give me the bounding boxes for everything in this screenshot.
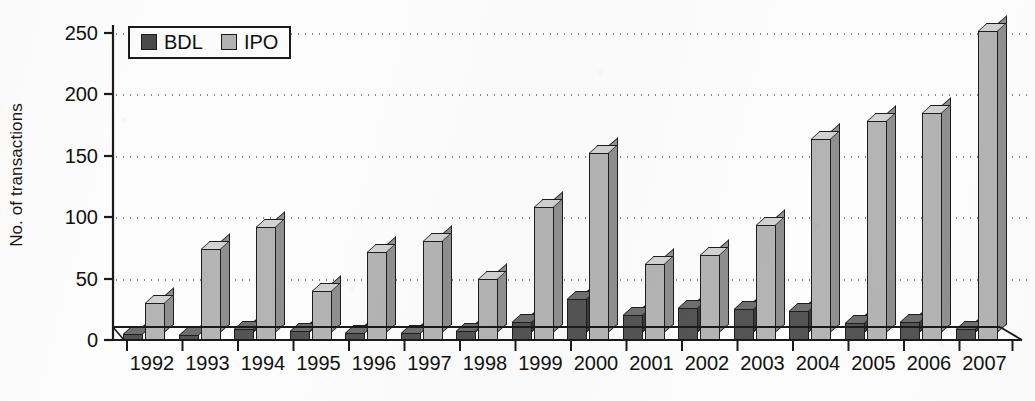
bar-front-face bbox=[123, 334, 143, 340]
plot-area bbox=[113, 20, 1028, 340]
bar-front-face bbox=[645, 264, 665, 340]
bar-ipo-1996 bbox=[367, 252, 387, 340]
x-tick-label-2003: 2003 bbox=[740, 352, 785, 375]
x-tick-label-2002: 2002 bbox=[685, 352, 730, 375]
x-tick-label-2001: 2001 bbox=[629, 352, 674, 375]
bar-bdl-1997 bbox=[401, 333, 421, 340]
x-tick-label-1995: 1995 bbox=[296, 352, 341, 375]
bar-bdl-1999 bbox=[512, 322, 532, 340]
bar-bdl-1992 bbox=[123, 334, 143, 340]
bar-ipo-1997 bbox=[423, 241, 443, 340]
y-tick-label-150: 150 bbox=[40, 144, 98, 167]
bar-side-face bbox=[887, 106, 896, 332]
bar-bdl-2002 bbox=[678, 308, 698, 340]
bar-side-face bbox=[554, 192, 563, 332]
bar-front-face bbox=[290, 331, 310, 340]
bar-ipo-2003 bbox=[756, 225, 776, 340]
bar-ipo-2002 bbox=[700, 255, 720, 340]
bar-ipo-1995 bbox=[312, 291, 332, 340]
bar-front-face bbox=[401, 333, 421, 340]
bar-side-face bbox=[609, 138, 618, 332]
bar-bdl-2003 bbox=[734, 309, 754, 340]
bar-front-face bbox=[700, 255, 720, 340]
bar-front-face bbox=[367, 252, 387, 340]
y-tick-label-250: 250 bbox=[40, 22, 98, 45]
bar-ipo-1992 bbox=[145, 303, 165, 340]
bar-bdl-1998 bbox=[456, 331, 476, 340]
x-tick-label-2000: 2000 bbox=[574, 352, 619, 375]
bar-bdl-2005 bbox=[845, 323, 865, 340]
bar-front-face bbox=[256, 227, 276, 340]
bar-front-face bbox=[623, 315, 643, 340]
bar-bdl-2004 bbox=[789, 311, 809, 340]
bar-front-face bbox=[900, 322, 920, 340]
bar-bdl-2000 bbox=[567, 299, 587, 340]
bar-bdl-2006 bbox=[900, 322, 920, 340]
bar-side-face bbox=[276, 211, 285, 332]
bar-front-face bbox=[678, 308, 698, 340]
bar-front-face bbox=[567, 299, 587, 340]
bar-front-face bbox=[345, 333, 365, 340]
bar-front-face bbox=[756, 225, 776, 340]
x-tick-label-2007: 2007 bbox=[962, 352, 1007, 375]
bar-side-face bbox=[831, 123, 840, 332]
y-tick-label-100: 100 bbox=[40, 206, 98, 229]
bar-front-face bbox=[922, 113, 942, 340]
bar-bdl-1995 bbox=[290, 331, 310, 340]
x-tick-label-2005: 2005 bbox=[851, 352, 896, 375]
legend-label-bdl: BDL bbox=[164, 32, 203, 52]
bar-front-face bbox=[956, 329, 976, 340]
bar-ipo-1998 bbox=[478, 279, 498, 340]
bar-ipo-2000 bbox=[589, 153, 609, 340]
bar-ipo-2004 bbox=[811, 139, 831, 340]
bar-front-face bbox=[456, 331, 476, 340]
y-tick-label-50: 50 bbox=[40, 267, 98, 290]
x-tick-label-1998: 1998 bbox=[463, 352, 508, 375]
bar-front-face bbox=[145, 303, 165, 340]
bar-front-face bbox=[534, 207, 554, 340]
bar-front-face bbox=[734, 309, 754, 340]
legend-label-ipo: IPO bbox=[244, 32, 278, 52]
x-tick-label-1993: 1993 bbox=[185, 352, 230, 375]
legend-swatch-bdl-icon bbox=[141, 34, 157, 50]
bar-front-face bbox=[589, 153, 609, 340]
legend-swatch-ipo-icon bbox=[221, 34, 237, 50]
legend-entry-ipo: IPO bbox=[221, 32, 278, 52]
x-tick-label-1996: 1996 bbox=[352, 352, 397, 375]
bar-front-face bbox=[201, 249, 221, 340]
y-axis-title: No. of transactions bbox=[7, 103, 27, 247]
y-tick-label-0: 0 bbox=[40, 329, 98, 352]
bar-front-face bbox=[811, 139, 831, 340]
bar-ipo-2005 bbox=[867, 121, 887, 340]
bar-bdl-2007 bbox=[956, 329, 976, 340]
bar-front-face bbox=[423, 241, 443, 340]
y-axis-title-container: No. of transactions bbox=[0, 0, 34, 350]
bar-front-face bbox=[845, 323, 865, 340]
bar-ipo-2001 bbox=[645, 264, 665, 340]
y-tick-label-200: 200 bbox=[40, 83, 98, 106]
bar-ipo-1994 bbox=[256, 227, 276, 340]
x-tick-label-2004: 2004 bbox=[796, 352, 841, 375]
bar-ipo-1999 bbox=[534, 207, 554, 340]
bar-bdl-1996 bbox=[345, 333, 365, 340]
x-tick-label-1992: 1992 bbox=[130, 352, 175, 375]
x-tick-label-1994: 1994 bbox=[241, 352, 286, 375]
bar-front-face bbox=[234, 329, 254, 340]
bar-bdl-1993 bbox=[179, 335, 199, 340]
bar-side-face bbox=[998, 15, 1007, 332]
bar-bdl-2001 bbox=[623, 315, 643, 340]
bar-front-face bbox=[312, 291, 332, 340]
bar-front-face bbox=[789, 311, 809, 340]
x-tick-label-1997: 1997 bbox=[407, 352, 452, 375]
legend-entry-bdl: BDL bbox=[141, 32, 203, 52]
bar-front-face bbox=[978, 31, 998, 340]
bar-front-face bbox=[512, 322, 532, 340]
bar-side-face bbox=[776, 209, 785, 332]
bar-front-face bbox=[179, 335, 199, 340]
bar-ipo-2006 bbox=[922, 113, 942, 340]
bar-front-face bbox=[867, 121, 887, 340]
bar-bdl-1994 bbox=[234, 329, 254, 340]
bar-front-face bbox=[478, 279, 498, 340]
bar-chart-figure: No. of transactions 250200150100500 1992… bbox=[0, 0, 1035, 401]
bar-side-face bbox=[443, 225, 452, 332]
